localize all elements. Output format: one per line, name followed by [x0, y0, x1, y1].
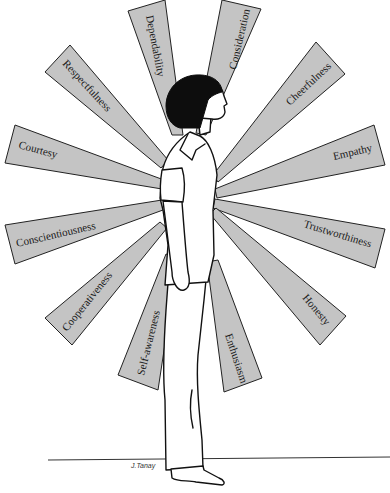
ray-enthusiasm: Enthusiasm: [207, 260, 262, 392]
traits-illustration: Dependability Consideration Respectfulne…: [0, 0, 390, 493]
ground-line: [48, 457, 390, 460]
artist-signature: J.Tanay: [130, 462, 156, 470]
